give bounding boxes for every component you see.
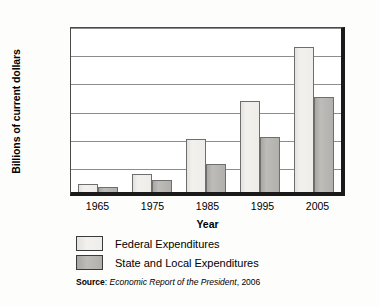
x-axis-title: Year xyxy=(70,218,345,230)
bar-federal-1975 xyxy=(132,174,152,192)
chart-figure: Billions of current dollars 05001,0001,5… xyxy=(0,0,380,306)
bar-federal-1995 xyxy=(240,101,260,192)
legend-item: Federal Expenditures xyxy=(76,234,356,253)
bar-state-local-2005 xyxy=(314,97,334,192)
x-axis-tick-label: 1985 xyxy=(180,200,235,216)
bar-group xyxy=(287,28,341,192)
bar-groups xyxy=(71,28,341,192)
x-axis-tick-label: 1995 xyxy=(235,200,290,216)
x-axis-tick-label: 2005 xyxy=(290,200,345,216)
legend-swatch-state-local xyxy=(76,255,103,270)
bar-state-local-1995 xyxy=(260,137,280,192)
bar-federal-2005 xyxy=(294,47,314,192)
bar-state-local-1965 xyxy=(98,187,118,192)
x-axis-tick-label: 1975 xyxy=(125,200,180,216)
bar-federal-1985 xyxy=(186,139,206,192)
x-axis-tick-label: 1965 xyxy=(70,200,125,216)
bar-state-local-1975 xyxy=(152,180,172,192)
source-year: , 2006 xyxy=(237,277,261,287)
bar-group xyxy=(233,28,287,192)
source-label: Source xyxy=(76,277,105,287)
plot-area-wrapper xyxy=(70,27,345,196)
bar-group xyxy=(179,28,233,192)
source-note: Source: Economic Report of the President… xyxy=(76,277,260,287)
plot-area xyxy=(70,27,345,196)
source-title: Economic Report of the President xyxy=(110,277,237,287)
legend: Federal Expenditures State and Local Exp… xyxy=(76,234,356,272)
legend-item: State and Local Expenditures xyxy=(76,253,356,272)
bar-state-local-1985 xyxy=(206,164,226,192)
legend-label-state-local: State and Local Expenditures xyxy=(115,257,259,269)
x-axis-tick-labels: 19651975198519952005 xyxy=(70,200,345,216)
legend-swatch-federal xyxy=(76,236,103,251)
bar-group xyxy=(71,28,125,192)
legend-label-federal: Federal Expenditures xyxy=(115,238,220,250)
bar-group xyxy=(125,28,179,192)
bar-federal-1965 xyxy=(78,184,98,192)
